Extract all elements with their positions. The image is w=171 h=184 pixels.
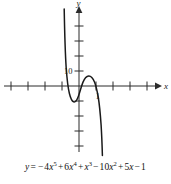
term-6-coef: 1 bbox=[141, 162, 146, 172]
polynomial-curve bbox=[64, 9, 102, 156]
term-5-var: x bbox=[129, 162, 133, 172]
equation-caption: y=−4x5+6x4+x3−10x2+5x−1 bbox=[0, 160, 171, 174]
y-tick-label-10: 10 bbox=[64, 66, 73, 76]
plot-area: y x 10 1 bbox=[0, 0, 171, 160]
term-4-sign: − bbox=[92, 162, 99, 172]
x-axis-label: x bbox=[163, 81, 168, 91]
term-4-coef: 10 bbox=[100, 162, 110, 172]
x-tick-label-1: 1 bbox=[96, 91, 100, 101]
polynomial-graph-figure: y x 10 1 y=−4x5+6x4+x3−10x2+5x−1 bbox=[0, 0, 171, 184]
caption-equals: = bbox=[29, 162, 36, 172]
term-6-sign: − bbox=[134, 162, 141, 172]
y-axis-label: y bbox=[76, 0, 81, 8]
x-axis-arrowhead bbox=[155, 83, 162, 90]
